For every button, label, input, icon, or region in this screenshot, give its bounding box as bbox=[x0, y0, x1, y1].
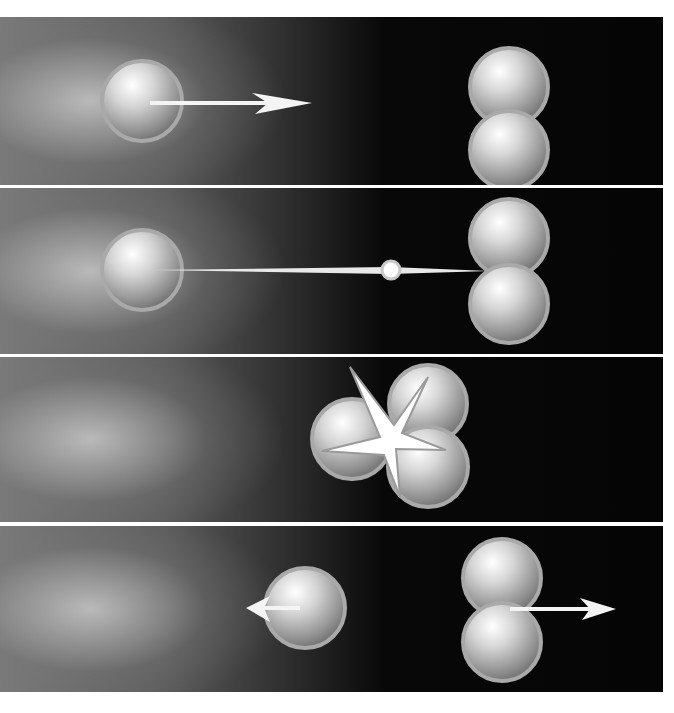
panel-impact-path bbox=[0, 188, 663, 354]
panel-approach bbox=[0, 17, 663, 185]
trajectory-streak bbox=[150, 267, 490, 274]
sphere-pair bbox=[470, 48, 548, 185]
impact-point-icon bbox=[382, 261, 400, 279]
panel-collision bbox=[0, 357, 663, 522]
panel-separation bbox=[0, 526, 663, 692]
